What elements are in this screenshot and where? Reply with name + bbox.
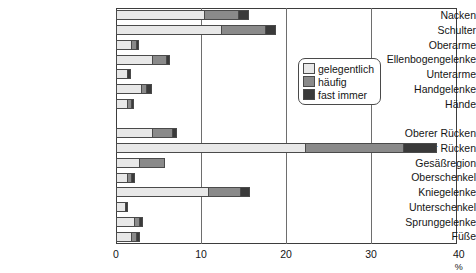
bar-segment-häufig — [152, 55, 166, 65]
bar-ellenbogengelenke — [116, 55, 170, 65]
stacked-bar-chart: NackenSchulterOberarmeEllenbogengelenkeU… — [0, 0, 476, 273]
bar-hände — [116, 99, 134, 109]
bar-segment-gelegentlich — [116, 202, 125, 212]
bar-segment-häufig — [208, 187, 240, 197]
bar-oberer-rücken — [116, 128, 177, 138]
bar-gesäßregion — [116, 158, 165, 168]
bar-segment-gelegentlich — [116, 173, 127, 183]
category-label: Sprunggelenke — [364, 215, 476, 230]
bar-segment-gelegentlich — [116, 187, 208, 197]
bar-sprunggelenke — [116, 217, 143, 227]
bar-segment-häufig — [139, 158, 165, 168]
bar-segment-gelegentlich — [116, 10, 204, 20]
bar-segment-gelegentlich — [116, 99, 127, 109]
bar-segment-fast-immer — [403, 143, 437, 153]
bar-segment-gelegentlich — [116, 158, 139, 168]
bar-segment-fast-immer — [238, 10, 249, 20]
legend-swatch-fast-immer — [303, 89, 315, 100]
bar-segment-gelegentlich — [116, 55, 152, 65]
legend-item-haeufig: häufig — [303, 75, 374, 88]
bar-segment-fast-immer — [136, 232, 139, 242]
bar-nacken — [116, 10, 249, 20]
bar-segment-fast-immer — [139, 217, 143, 227]
legend-item-fast-immer: fast immer — [303, 88, 374, 101]
bar-unterschenkel — [116, 202, 128, 212]
category-label: Nacken — [364, 8, 476, 23]
bar-segment-fast-immer — [265, 25, 276, 35]
gridline-20 — [286, 8, 287, 244]
bar-unterer-rücken — [116, 143, 437, 153]
bar-segment-häufig — [221, 25, 265, 35]
legend-item-gelegentlich: gelegentlich — [303, 62, 374, 75]
x-tick-label-40: 40 % — [449, 248, 469, 272]
bar-segment-häufig — [152, 128, 172, 138]
bar-segment-fast-immer — [240, 187, 250, 197]
bar-segment-fast-immer — [146, 84, 152, 94]
bar-segment-fast-immer — [166, 55, 170, 65]
bar-segment-gelegentlich — [116, 217, 134, 227]
legend-label-haeufig: häufig — [318, 76, 347, 88]
bar-schulter — [116, 25, 276, 35]
x-tick-label-10: 10 — [195, 248, 207, 260]
bar-oberschenkel — [116, 173, 135, 183]
category-label: Gesäßregion — [364, 156, 476, 171]
bar-segment-gelegentlich — [116, 84, 141, 94]
bar-oberarme — [116, 40, 139, 50]
bar-segment-gelegentlich — [116, 232, 131, 242]
category-label: Oberschenkel — [364, 170, 476, 185]
gridline-10 — [201, 8, 202, 244]
bar-handgelenke — [116, 84, 152, 94]
x-tick-label-0: 0 — [113, 248, 119, 260]
x-tick-label-30: 30 — [365, 248, 377, 260]
bar-segment-gelegentlich — [116, 128, 152, 138]
bar-segment-fast-immer — [125, 202, 128, 212]
legend-label-fast-immer: fast immer — [318, 89, 367, 101]
bar-segment-fast-immer — [136, 40, 139, 50]
bar-segment-häufig — [305, 143, 404, 153]
bar-segment-fast-immer — [127, 69, 131, 79]
bar-füße — [116, 232, 140, 242]
bar-segment-gelegentlich — [116, 25, 221, 35]
category-label: Oberer Rücken — [364, 126, 476, 141]
bar-segment-häufig — [204, 10, 237, 20]
bar-segment-fast-immer — [131, 99, 134, 109]
legend-label-gelegentlich: gelegentlich — [318, 63, 374, 75]
category-label: Schulter — [364, 23, 476, 38]
bar-segment-fast-immer — [172, 128, 177, 138]
x-tick-label-20: 20 — [280, 248, 292, 260]
category-label: Füße — [364, 229, 476, 244]
bar-segment-gelegentlich — [116, 40, 131, 50]
bar-segment-gelegentlich — [116, 69, 127, 79]
bar-segment-fast-immer — [131, 173, 134, 183]
category-label: Kniegelenke — [364, 185, 476, 200]
legend: gelegentlich häufig fast immer — [298, 58, 381, 105]
legend-swatch-gelegentlich — [303, 63, 315, 74]
category-label: Oberarme — [364, 38, 476, 53]
category-label: Unterschenkel — [364, 200, 476, 215]
legend-swatch-haeufig — [303, 76, 315, 87]
bar-segment-gelegentlich — [116, 143, 305, 153]
bar-unterarme — [116, 69, 131, 79]
bar-kniegelenke — [116, 187, 250, 197]
